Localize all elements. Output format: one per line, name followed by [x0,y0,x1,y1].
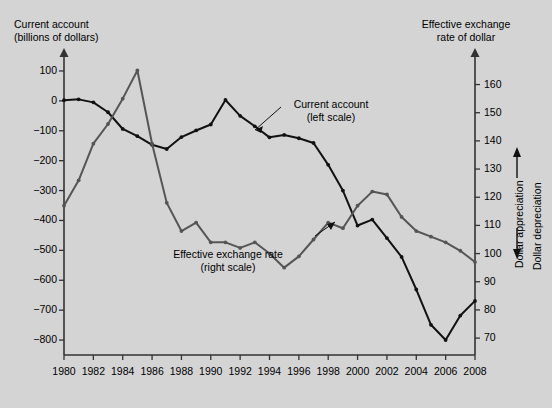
series-marker [106,122,110,126]
series-marker [370,190,374,194]
series-marker [429,235,433,239]
series-marker [77,178,81,182]
series-marker [165,147,169,151]
series-marker [224,98,228,102]
series-marker [370,218,374,222]
series-marker [297,136,301,140]
right-axis-tick-label: 140 [484,134,514,146]
series-marker [400,255,404,259]
series-marker [473,260,477,264]
series-marker [209,123,213,127]
chart-figure: Current account (billions of dollars) Ef… [0,0,552,408]
annotation-current-account: Current account (left scale) [276,98,386,124]
series-marker [444,240,448,244]
series-marker [91,142,95,146]
series-marker [458,249,462,253]
left-axis-tick-label: −300 [13,184,57,196]
series-marker [106,110,110,114]
series-marker [414,229,418,233]
annotation-exchange-rate: Effective exchange rate (right scale) [148,248,308,274]
series-marker [224,240,228,244]
series-group [62,69,477,342]
series-marker [121,127,125,131]
left-axis-tick-label: −200 [13,154,57,166]
series-marker [268,135,272,139]
series-marker [444,338,448,342]
series-marker [62,98,66,102]
vertical-label-dollar-appreciation: Dollar appreciation [513,180,525,268]
left-axis-tick-label: −700 [13,303,57,315]
left-axis-tick-label: −800 [13,333,57,345]
series-marker [194,129,198,133]
series-marker [194,221,198,225]
series-marker [473,299,477,303]
axes-group [59,48,480,360]
annotation-leader-lines [255,107,335,236]
series-marker [458,314,462,318]
series-marker [385,193,389,197]
left-axis-tick-label: −500 [13,243,57,255]
series-marker [356,224,360,228]
series-marker [238,114,242,118]
x-axis-tick-label: 2008 [457,365,493,377]
series-marker [62,204,66,208]
series-marker [91,100,95,104]
series-marker [356,204,360,208]
series-marker [180,229,184,233]
right-axis-tick-label: 70 [484,331,514,343]
series-marker [165,201,169,205]
series-marker [135,69,139,73]
series-marker [150,142,154,146]
right-axis-tick-label: 150 [484,106,514,118]
series-marker [312,238,316,242]
right-axis-tick-label: 110 [484,218,514,230]
right-axis-tick-label: 90 [484,275,514,287]
series-marker [77,97,81,101]
series-marker [253,124,257,128]
series-marker [341,226,345,230]
series-marker [209,240,213,244]
left-axis-tick-label: −400 [13,213,57,225]
series-marker [385,236,389,240]
right-axis-tick-label: 130 [484,162,514,174]
plot-area [0,0,552,408]
series-marker [429,323,433,327]
series-marker [400,215,404,219]
series-marker [341,189,345,193]
right-axis-tick-label: 120 [484,190,514,202]
series-marker [121,97,125,101]
left-axis-arrowhead [60,48,69,57]
series-marker [414,288,418,292]
right-axis-arrowhead [471,48,480,57]
left-axis-tick-label: −100 [13,124,57,136]
right-axis-tick-label: 100 [484,247,514,259]
series-marker [180,135,184,139]
left-axis-tick-label: 100 [13,64,57,76]
vertical-label-dollar-depreciation: Dollar depreciation [531,182,543,270]
left-axis-tick-label: 0 [13,94,57,106]
series-marker [282,133,286,137]
right-axis-tick-label: 160 [484,78,514,90]
right-axis-tick-label: 80 [484,303,514,315]
series-marker [253,240,257,244]
left-axis-tick-label: −600 [13,273,57,285]
series-marker [135,134,139,138]
series-marker [312,141,316,145]
series-line [64,70,475,267]
series-marker [326,163,330,167]
